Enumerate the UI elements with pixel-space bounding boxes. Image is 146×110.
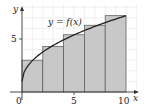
origin-label: 0 [16, 96, 22, 106]
rectangle-4 [84, 25, 105, 92]
y-tick-label-5: 5 [11, 34, 17, 44]
rectangle-3 [64, 35, 85, 92]
x-tick-label-10: 10 [118, 96, 130, 106]
x-axis-label: x [133, 93, 138, 103]
rectangle-1 [22, 60, 43, 92]
riemann-sum-chart: y 5 0 5 10 x y = f(x) [0, 0, 146, 110]
y-axis-label: y [12, 4, 19, 14]
rectangle-5 [105, 16, 126, 92]
y-axis-arrow-icon [20, 6, 24, 11]
x-tick-label-5: 5 [71, 96, 77, 106]
rectangle-2 [43, 46, 64, 92]
curve-label: y = f(x) [47, 17, 82, 27]
